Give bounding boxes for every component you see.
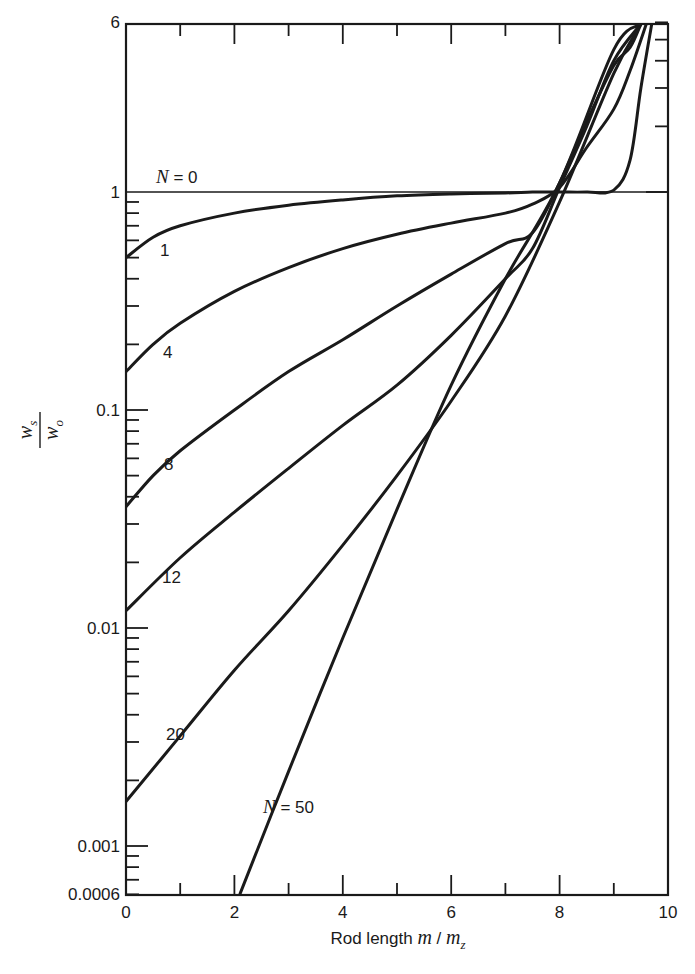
curve-label: N = 50 bbox=[262, 796, 314, 817]
plot-frame bbox=[126, 24, 668, 895]
x-tick-label: 10 bbox=[659, 903, 678, 922]
x-tick-label: 0 bbox=[121, 903, 130, 922]
y-tick-label: 0.01 bbox=[87, 619, 120, 638]
x-label-sub: z bbox=[459, 937, 465, 952]
y-tick-label: 1 bbox=[111, 183, 120, 202]
x-label-var2: m bbox=[446, 926, 460, 948]
x-label-sep: / bbox=[432, 929, 446, 948]
y-label-denominator: w bbox=[40, 426, 62, 440]
x-label-prefix: Rod length bbox=[330, 929, 417, 948]
curve-labels: N = 01481220N = 50 bbox=[155, 166, 314, 817]
x-label-var: m bbox=[417, 926, 431, 948]
curve-label: 12 bbox=[162, 568, 181, 587]
x-tick-label: 4 bbox=[338, 903, 347, 922]
y-label-numerator-sub: s bbox=[25, 421, 40, 426]
y-tick-label: 6 bbox=[111, 13, 120, 32]
x-axis-label: Rod length m / mz bbox=[330, 926, 465, 952]
y-label-numerator: w bbox=[14, 425, 36, 439]
y-tick-label: 0.0006 bbox=[68, 885, 120, 904]
y-tick-label: 0.1 bbox=[96, 401, 120, 420]
curve-label: N = 0 bbox=[155, 166, 198, 187]
y-label-denominator-sub: o bbox=[51, 420, 66, 427]
svg-text:ws: ws bbox=[14, 421, 40, 439]
x-tick-label: 6 bbox=[446, 903, 455, 922]
curve-label: 8 bbox=[164, 455, 173, 474]
chart-canvas: 0.00060.0010.010.116 0246810 N = 0148122… bbox=[0, 0, 695, 974]
curve-label: 1 bbox=[160, 241, 169, 260]
curve-n12 bbox=[126, 24, 641, 611]
data-curves bbox=[126, 24, 652, 894]
x-tick-label: 2 bbox=[230, 903, 239, 922]
curve-n8 bbox=[126, 24, 641, 507]
svg-text:wo: wo bbox=[40, 420, 66, 440]
curve-label: 20 bbox=[166, 725, 185, 744]
curve-n20 bbox=[126, 24, 641, 802]
curve-n1 bbox=[126, 24, 652, 258]
x-tick-label: 8 bbox=[555, 903, 564, 922]
curve-label: 4 bbox=[163, 343, 172, 362]
y-axis-label: ws wo bbox=[14, 412, 66, 448]
y-tick-label: 0.001 bbox=[77, 837, 120, 856]
